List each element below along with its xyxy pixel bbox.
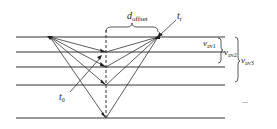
ray-1 [50,37,158,52]
ray-paths [50,37,158,118]
v3-brace [235,37,240,82]
tr-arrow-line [161,20,176,34]
v2-label: vav2 [224,47,237,58]
ray-4 [50,37,158,118]
continuation-ellipsis: ... [242,96,248,105]
t0-arrow-line [70,57,101,92]
v1-label: vav1 [203,38,216,49]
arrowhead-icon [101,80,107,86]
offset-label: doffset [127,10,148,23]
v2-brace [218,38,223,63]
arrowhead-icon [101,112,106,118]
tr-label: tr [177,10,182,22]
offset-brace [106,23,158,32]
t0-arrowhead-icon [97,55,102,60]
raypath-diagram: doffset tr t0 vav1 vav2 vav3 ... [0,0,277,129]
arrowhead-icon [100,49,106,53]
t0-label: t0 [59,91,65,103]
v3-label: vav3 [241,55,254,66]
layer-boundaries [16,37,225,118]
reflection-arrowheads [100,49,106,119]
arrowhead-icon [100,62,106,67]
